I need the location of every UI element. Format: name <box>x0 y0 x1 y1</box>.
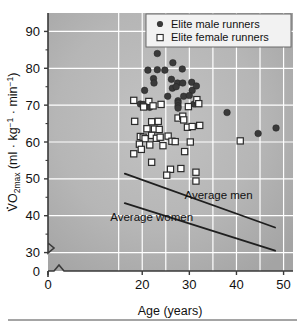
figure-container: Average menAverage women 304050607080900… <box>0 0 305 326</box>
legend-marker-filled-circle-icon <box>157 21 163 27</box>
data-point-female-runner <box>138 146 144 152</box>
legend: Elite male runners Elite female runners <box>146 14 291 47</box>
data-point-female-runner <box>164 172 170 178</box>
data-point-female-runner <box>193 169 199 175</box>
y-axis-tick-label: 60 <box>26 135 40 150</box>
data-point-male-runner <box>154 50 161 57</box>
data-point-female-runner <box>131 97 137 103</box>
data-point-male-runner <box>193 83 200 90</box>
x-axis-tick-label: 30 <box>182 277 196 292</box>
data-point-female-runner <box>172 139 178 145</box>
data-point-male-runner <box>145 67 152 74</box>
data-point-female-runner <box>189 123 195 129</box>
y-axis-tick-label: 30 <box>26 245 40 260</box>
data-point-female-runner <box>196 101 202 107</box>
data-point-female-runner <box>149 159 155 165</box>
data-point-female-runner <box>147 142 153 148</box>
data-point-female-runner <box>158 101 164 107</box>
data-point-female-runner <box>185 104 191 110</box>
data-point-female-runner <box>156 126 162 132</box>
data-point-male-runner <box>141 87 148 94</box>
data-point-female-runner <box>155 118 161 124</box>
vo2max-vs-age-scatter-chart: Average menAverage women 304050607080900… <box>0 0 305 326</box>
y-axis-tick-labels: 304050607080900 <box>26 24 40 279</box>
y-axis-tick-label: 40 <box>26 208 40 223</box>
data-point-female-runner <box>132 118 138 124</box>
data-point-female-runner <box>178 165 184 171</box>
data-point-female-runner <box>197 122 203 128</box>
x-axis-tick-label: 0 <box>44 277 51 292</box>
data-point-male-runner <box>162 67 169 74</box>
data-point-male-runner <box>175 105 182 112</box>
data-point-female-runner <box>237 138 243 144</box>
data-point-female-runner <box>182 148 188 154</box>
y-axis-tick-label: 50 <box>26 171 40 186</box>
data-point-female-runner <box>193 178 199 184</box>
data-point-male-runner <box>154 66 161 73</box>
data-point-male-runner <box>186 92 193 99</box>
y-axis-zero-label: 0 <box>33 264 40 279</box>
data-point-female-runner <box>131 151 137 157</box>
data-point-male-runner <box>168 76 175 83</box>
data-point-male-runner <box>224 109 231 116</box>
data-point-female-runner <box>149 119 155 125</box>
legend-marker-open-square-icon <box>157 35 163 41</box>
data-point-female-runner <box>187 139 193 145</box>
annotation-average-women: Average women <box>110 211 193 223</box>
data-point-female-runner <box>181 117 187 123</box>
data-point-female-runner <box>150 103 156 109</box>
annotation-average-men: Average men <box>184 189 252 201</box>
plot-area: Average menAverage women <box>48 13 293 271</box>
data-point-male-runner <box>170 59 177 66</box>
data-point-female-runner <box>141 104 147 110</box>
data-point-male-runner <box>179 66 186 73</box>
data-point-female-runner <box>144 126 150 132</box>
x-axis-tick-label: 20 <box>135 277 149 292</box>
data-point-male-runner <box>151 80 158 87</box>
data-point-female-runner <box>167 166 173 172</box>
y-axis-tick-label: 70 <box>26 98 40 113</box>
data-point-female-runner <box>160 143 166 149</box>
data-point-male-runner <box>173 83 180 90</box>
x-axis-tick-labels: 020304050 <box>44 277 290 292</box>
v-overdot-icon <box>7 207 9 209</box>
data-point-male-runner <box>179 80 186 87</box>
x-axis-title-text: Age (years) <box>138 304 203 318</box>
data-point-male-runner <box>273 125 280 132</box>
legend-label-female: Elite female runners <box>171 31 269 43</box>
data-point-male-runner <box>255 130 262 137</box>
y-axis-tick-label: 80 <box>26 61 40 76</box>
y-axis-title: VO2max (ml · kg−1 · min−1) <box>5 73 22 212</box>
x-axis-tick-label: 50 <box>276 277 290 292</box>
x-axis-tick-label: 40 <box>229 277 243 292</box>
y-axis-title-text: VO2max (ml · kg−1 · min−1) <box>5 73 22 212</box>
legend-label-male: Elite male runners <box>171 18 260 30</box>
data-point-female-runner <box>157 134 163 140</box>
y-axis-tick-label: 90 <box>26 24 40 39</box>
data-point-male-runner <box>164 93 171 100</box>
